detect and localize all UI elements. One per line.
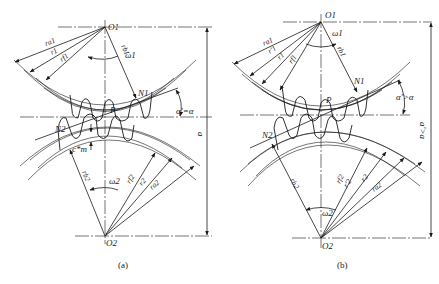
panel-a: a O1 O2	[14, 20, 212, 270]
radius-ra2	[321, 162, 422, 238]
gear2-dedendum-arc	[38, 136, 182, 168]
o2-label: O2	[322, 241, 333, 251]
rf2-label: rf2	[124, 173, 136, 185]
panel-b: a'>a O1 O2 ω1 ω2 P N1 N	[232, 10, 432, 270]
center-distance-label: a	[196, 132, 206, 137]
pressure-angle-label: α'=α	[176, 106, 194, 116]
radius-r-prime-1	[250, 22, 321, 76]
o1-label: O1	[108, 22, 119, 32]
n1-label: N1	[353, 76, 365, 86]
rf1-label: rf1	[58, 51, 70, 63]
radius-rf2	[321, 148, 367, 238]
n1-label: N1	[137, 88, 149, 98]
gear2-dedendum-arc	[256, 142, 405, 176]
pressure-angle-label: α'>α	[396, 92, 414, 102]
gear2-pitch-arc	[248, 132, 415, 164]
gear-mesh-diagram: a O1 O2	[0, 0, 439, 284]
radius-r-prime-2	[321, 152, 386, 238]
r1-label: r1	[49, 46, 59, 57]
o2-label: O2	[106, 238, 117, 248]
n2-label: N2	[54, 124, 66, 134]
radius-rb2	[70, 150, 105, 236]
radius-rf2	[105, 153, 155, 236]
pitch-point-label: P	[325, 95, 332, 105]
radius-rb2	[272, 144, 321, 238]
r2-label: r2	[359, 172, 370, 183]
omega1-label: ω1	[332, 28, 343, 38]
n2-label: N2	[261, 130, 273, 140]
o1-label: O1	[325, 10, 336, 20]
ra2-label: ra2	[148, 178, 162, 192]
rb2-label: rb2	[80, 169, 92, 182]
r1-label: r1	[275, 50, 286, 61]
ra2-label: ra2	[370, 180, 384, 194]
omega2-label: ω2	[322, 208, 333, 218]
caption-a: (a)	[118, 260, 128, 270]
radius-r2	[321, 158, 404, 238]
center-distance-label: a'>a	[418, 122, 428, 139]
radius-r2	[105, 158, 172, 236]
rb1-label: rb1	[335, 45, 348, 58]
caption-b: (b)	[337, 260, 348, 270]
gear1-base-arc	[262, 90, 382, 110]
omega2-rotation-arrow	[90, 188, 118, 191]
r2-label: r2	[137, 176, 148, 187]
rf1-label: rf1	[286, 53, 298, 65]
radius-r1	[30, 27, 105, 72]
gear2-teeth	[58, 114, 134, 150]
pitch-point-label: P	[109, 105, 116, 115]
omega1-rotation-arrow	[88, 56, 118, 59]
clearance-label: c*m	[72, 144, 87, 154]
omega2-label: ω2	[109, 176, 120, 186]
radius-rb1	[105, 27, 136, 98]
